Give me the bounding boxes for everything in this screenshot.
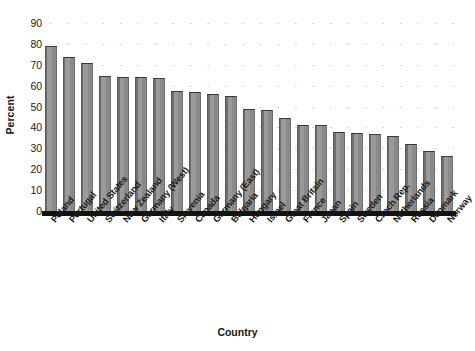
y-axis-tick-60: 60 [16,80,42,92]
y-axis-tick-10: 10 [16,184,42,196]
bar-switzerland[interactable] [99,23,110,211]
bar-israel[interactable] [261,23,272,211]
bar-portugal[interactable] [63,23,74,211]
y-axis-title-text: Percent [4,95,16,134]
bar-sweden[interactable] [351,23,362,211]
bar-fill [81,63,92,211]
bar-fill [45,46,56,211]
bar-netherlands[interactable] [387,23,398,211]
bar-spain[interactable] [333,23,344,211]
y-axis-tick-70: 70 [16,59,42,71]
bar-great-britain[interactable] [279,23,290,211]
bar-canada[interactable] [189,23,200,211]
y-axis-tick-30: 30 [16,142,42,154]
x-axis-title: Country [0,326,475,338]
bar-chart: Percent 0102030405060708090 PolandPortug… [0,0,475,351]
bar-fill [171,91,182,211]
y-axis-tick-labels: 0102030405060708090 [16,0,42,351]
y-axis-tick-0: 0 [16,205,42,217]
y-axis-tick-20: 20 [16,163,42,175]
bar-norway[interactable] [441,23,452,211]
bar-poland[interactable] [45,23,56,211]
bar-germany-east[interactable] [207,23,218,211]
bar-bulgaria[interactable] [225,23,236,211]
bar-united-states[interactable] [81,23,92,211]
y-axis-tick-90: 90 [16,17,42,29]
bar-fill [279,118,290,211]
bar-czech-rep[interactable] [369,23,380,211]
x-axis-tick-labels: PolandPortugalUnited StatesSwitzerlandNe… [42,218,462,318]
y-axis-tick-80: 80 [16,38,42,50]
y-axis-tick-50: 50 [16,101,42,113]
bar-france[interactable] [297,23,308,211]
bar-fill [63,57,74,211]
y-axis-tick-40: 40 [16,121,42,133]
